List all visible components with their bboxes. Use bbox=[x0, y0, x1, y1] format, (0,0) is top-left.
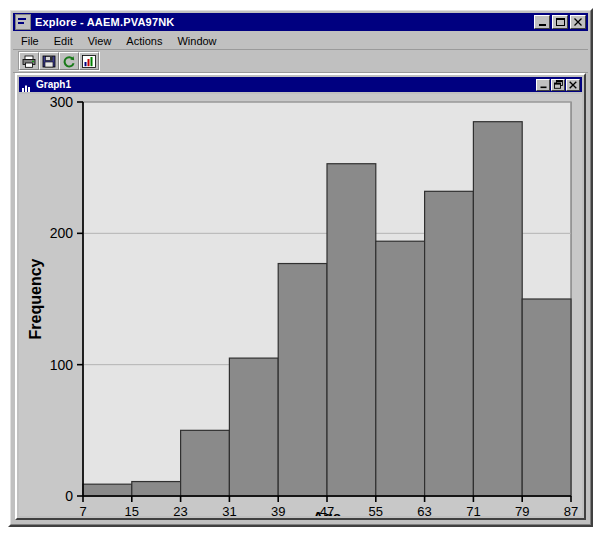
y-tick-label: 300 bbox=[50, 94, 74, 110]
window-title: Explore - AAEM.PVA97NK bbox=[35, 16, 534, 28]
histogram-bar[interactable] bbox=[83, 484, 132, 496]
histogram-chart: 0100200300 715233139475563717987 Frequen… bbox=[19, 94, 582, 516]
close-icon[interactable] bbox=[570, 15, 586, 29]
histogram-bar[interactable] bbox=[425, 191, 474, 496]
chart-icon bbox=[82, 55, 96, 68]
graph-restore-button[interactable] bbox=[551, 79, 565, 91]
toolbar bbox=[13, 50, 588, 73]
application-window: Explore - AAEM.PVA97NK File Edit View Ac… bbox=[8, 8, 593, 527]
explore-icon bbox=[15, 14, 31, 30]
menu-item-window[interactable]: Window bbox=[170, 34, 223, 48]
graph-close-icon[interactable] bbox=[566, 79, 580, 91]
graph-window-controls bbox=[536, 79, 580, 91]
x-tick-label: 23 bbox=[173, 504, 187, 516]
x-axis-label: Age bbox=[313, 508, 341, 516]
graph-minimize-button[interactable] bbox=[536, 79, 550, 91]
histogram-bar[interactable] bbox=[473, 122, 522, 496]
histogram-bar[interactable] bbox=[522, 299, 571, 496]
graph-window-title: Graph1 bbox=[36, 79, 536, 90]
menu-item-view[interactable]: View bbox=[81, 34, 119, 48]
histogram-bar[interactable] bbox=[181, 430, 230, 496]
histogram-bar[interactable] bbox=[376, 241, 425, 496]
y-tick-label: 100 bbox=[50, 357, 74, 373]
graph-window: Graph1 bbox=[15, 73, 586, 520]
refresh-button[interactable] bbox=[59, 52, 79, 70]
chart-canvas: 0100200300 715233139475563717987 Frequen… bbox=[19, 94, 582, 516]
x-tick-label: 7 bbox=[79, 504, 86, 516]
menu-bar: File Edit View Actions Window bbox=[13, 32, 588, 50]
menu-item-file[interactable]: File bbox=[14, 34, 46, 48]
graph-button[interactable] bbox=[79, 52, 99, 70]
menu-item-actions[interactable]: Actions bbox=[119, 34, 169, 48]
save-icon bbox=[42, 55, 56, 68]
histogram-icon bbox=[21, 79, 32, 90]
x-tick-label: 87 bbox=[564, 504, 578, 516]
graph-window-title-bar[interactable]: Graph1 bbox=[19, 77, 582, 92]
histogram-bar[interactable] bbox=[278, 264, 327, 496]
print-button[interactable] bbox=[19, 52, 39, 70]
y-tick-label: 200 bbox=[50, 225, 74, 241]
refresh-icon bbox=[62, 55, 76, 68]
application-window-frame: Explore - AAEM.PVA97NK File Edit View Ac… bbox=[10, 10, 591, 525]
window-controls bbox=[534, 15, 586, 29]
close-glyph bbox=[574, 18, 582, 26]
print-icon bbox=[22, 55, 36, 68]
x-tick-label: 15 bbox=[125, 504, 139, 516]
menu-item-edit[interactable]: Edit bbox=[47, 34, 80, 48]
maximize-button[interactable] bbox=[552, 15, 568, 29]
minimize-button[interactable] bbox=[534, 15, 550, 29]
histogram-bar[interactable] bbox=[327, 164, 376, 496]
histogram-bar[interactable] bbox=[229, 358, 278, 496]
title-bar[interactable]: Explore - AAEM.PVA97NK bbox=[13, 13, 588, 31]
y-axis-label: Frequency bbox=[27, 258, 44, 339]
x-tick-label: 79 bbox=[515, 504, 529, 516]
minimize-glyph bbox=[540, 81, 547, 89]
x-tick-label: 39 bbox=[271, 504, 285, 516]
x-tick-label: 71 bbox=[466, 504, 480, 516]
close-glyph bbox=[569, 81, 577, 89]
restore-glyph bbox=[554, 80, 563, 89]
toolbar-button-group bbox=[18, 51, 100, 71]
x-tick-label: 31 bbox=[222, 504, 236, 516]
y-tick-label: 0 bbox=[65, 488, 73, 504]
x-tick-label: 55 bbox=[369, 504, 383, 516]
histogram-bar[interactable] bbox=[132, 482, 181, 496]
x-tick-label: 63 bbox=[417, 504, 431, 516]
save-button[interactable] bbox=[39, 52, 59, 70]
